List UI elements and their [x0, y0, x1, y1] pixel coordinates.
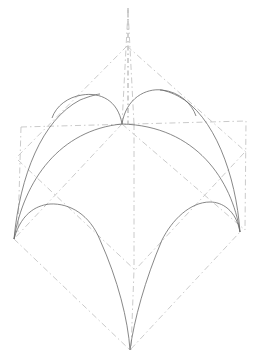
bounding-rectangle [18, 121, 246, 232]
upper-left-lobe [52, 94, 122, 124]
upper-construction-lines [16, 10, 246, 158]
vertical-axis [128, 8, 134, 350]
lower-right-arch [130, 202, 240, 350]
arch-ribs [14, 90, 240, 350]
diagonal-construction-lines [14, 124, 245, 270]
main-arch-right [122, 124, 240, 232]
lower-diamond [14, 232, 240, 350]
outer-arch-left [14, 94, 100, 239]
vault-construction-diagram [0, 0, 258, 358]
lower-left-arch [14, 204, 130, 350]
